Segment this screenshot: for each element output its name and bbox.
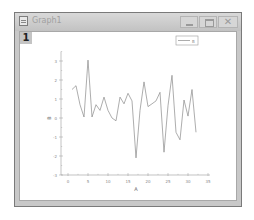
y-tick-label: -1 [53, 135, 57, 140]
x-tick-label: 30 [185, 179, 191, 184]
y-tick-label: -3 [53, 173, 57, 178]
title-bar[interactable]: Graph1 ✕ [15, 13, 241, 31]
minimize-button[interactable] [180, 16, 198, 28]
close-button[interactable]: ✕ [218, 16, 238, 28]
y-tick-label: 0 [54, 116, 57, 121]
x-tick-label: 5 [87, 179, 90, 184]
graph-window-icon [19, 16, 28, 26]
layer-tab[interactable]: 1 [20, 32, 32, 44]
x-tick-label: 0 [67, 179, 70, 184]
maximize-button[interactable] [199, 16, 217, 28]
legend-entry: B [192, 39, 195, 44]
data-line-B [72, 60, 196, 158]
x-tick-label: 35 [205, 179, 211, 184]
y-axis-label: B [46, 116, 52, 120]
y-tick-label: 1 [54, 97, 57, 102]
graph-window[interactable]: Graph1 ✕ 3210-1-2-305101520253035ABB 1 [14, 12, 242, 207]
x-tick-label: 25 [165, 179, 171, 184]
line-chart: 3210-1-2-305101520253035ABB [20, 32, 238, 202]
graph-page[interactable]: 3210-1-2-305101520253035ABB 1 [19, 31, 237, 201]
window-title: Graph1 [32, 16, 62, 25]
x-tick-label: 15 [125, 179, 131, 184]
x-tick-label: 20 [145, 179, 151, 184]
x-axis-label: A [134, 186, 138, 192]
y-tick-label: -2 [53, 154, 57, 159]
y-tick-label: 2 [54, 78, 57, 83]
y-tick-label: 3 [54, 59, 57, 64]
x-tick-label: 10 [105, 179, 111, 184]
